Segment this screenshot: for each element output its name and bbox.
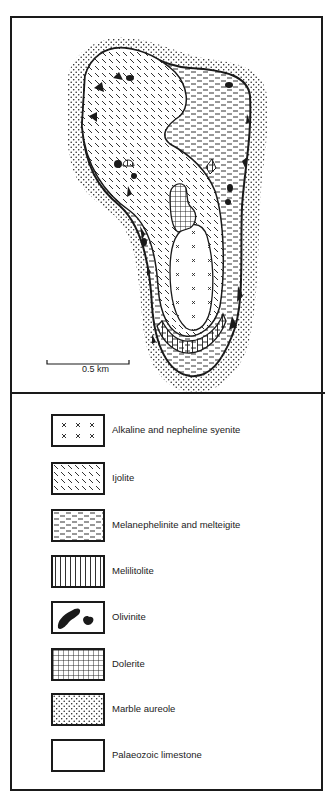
legend-item-palaeozoic-limestone: Palaeozoic limestone [51, 739, 311, 773]
melanephelinite-swatch-icon [51, 509, 105, 542]
legend-label: Marble aureole [112, 703, 175, 714]
legend-item-dolerite: Dolerite [51, 648, 311, 682]
limestone-swatch-icon [51, 739, 105, 772]
legend-label: Ijolite [112, 472, 134, 483]
syenite-swatch-icon [51, 414, 105, 447]
legend-label: Alkaline and nepheline syenite [112, 424, 240, 435]
legend-item-syenite: Alkaline and nepheline syenite [51, 414, 311, 448]
legend-label: Melilitolite [112, 565, 154, 576]
map-legend-divider [10, 392, 325, 394]
ijolite-swatch-icon [51, 462, 105, 495]
legend-item-melanephelinite: Melanephelinite and melteigite [51, 509, 311, 543]
legend-item-melilitolite: Melilitolite [51, 555, 311, 589]
marble-aureole-swatch-icon [51, 693, 105, 726]
olivinite-swatch-icon [51, 601, 105, 634]
melilitolite-swatch-icon [51, 555, 105, 588]
legend-label: Olivinite [112, 611, 146, 622]
legend-label: Melanephelinite and melteigite [112, 519, 240, 530]
legend-item-olivinite: Olivinite [51, 601, 311, 635]
legend-label: Palaeozoic limestone [112, 749, 202, 760]
legend-label: Dolerite [112, 658, 145, 669]
dolerite-swatch-icon [51, 648, 105, 681]
legend-item-marble-aureole: Marble aureole [51, 693, 311, 727]
legend-item-ijolite: Ijolite [51, 462, 311, 496]
